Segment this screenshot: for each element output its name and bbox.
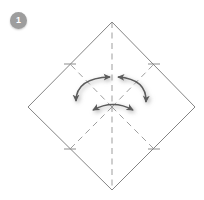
step-number-badge: 1 (10, 12, 27, 29)
step-number-label: 1 (16, 16, 21, 25)
origami-step-figure: 1 (0, 0, 204, 200)
origami-diagram-canvas (0, 0, 204, 200)
